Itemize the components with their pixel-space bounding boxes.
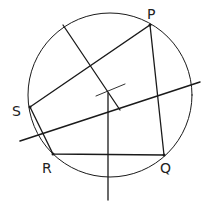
vertex-R xyxy=(52,153,55,156)
label-S: S xyxy=(12,103,21,119)
label-P: P xyxy=(147,6,155,22)
vertex-points xyxy=(29,24,166,157)
label-Q: Q xyxy=(160,160,171,176)
vertex-S xyxy=(29,106,32,109)
geometry-diagram: P Q R S xyxy=(0,0,210,212)
perpendicular-bisector-PQ xyxy=(20,82,200,141)
perpendicular-bisector-SR xyxy=(96,84,125,96)
vertex-Q xyxy=(163,154,166,157)
quadrilateral-PQRS xyxy=(30,25,164,155)
vertex-P xyxy=(149,24,152,27)
perpendicular-bisector-SP xyxy=(63,25,120,110)
label-R: R xyxy=(42,160,52,176)
